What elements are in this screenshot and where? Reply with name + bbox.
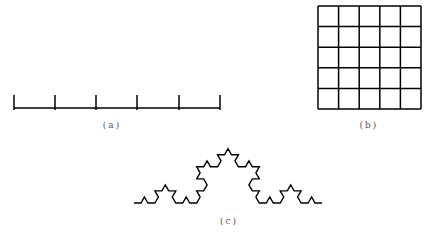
figure-canvas [0, 0, 432, 237]
panel-c-koch-curve [134, 149, 322, 203]
panel-b-grid [318, 6, 421, 109]
panel-b-label: (b) [360, 120, 379, 130]
panel-a-label: (a) [103, 120, 121, 130]
panel-c-label: (c) [220, 216, 238, 226]
panel-a-segmented-line [14, 95, 220, 110]
